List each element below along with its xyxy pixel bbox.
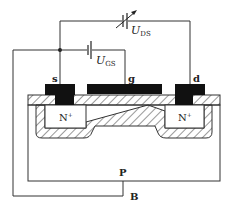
gate-electrode — [87, 84, 162, 94]
uds-label: UDS — [131, 24, 151, 38]
ugs-label: UGS — [96, 54, 116, 68]
body-label: B — [130, 191, 138, 202]
gate-label: g — [128, 73, 135, 84]
source-label: s — [52, 73, 58, 84]
battery-icon — [88, 41, 91, 59]
mosfet-diagram: UDS UGS s g d N+ N+ P B — [0, 0, 227, 207]
drain-label: d — [193, 73, 200, 84]
substrate-label: P — [119, 167, 127, 178]
